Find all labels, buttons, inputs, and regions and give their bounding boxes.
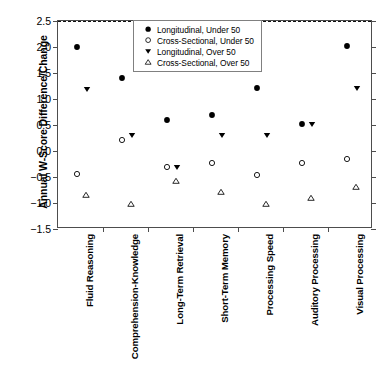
data-point-open-triangle-up: [306, 193, 315, 202]
figure-container: Annual W-Score Difference/Change 2.52.01…: [0, 0, 384, 370]
x-axis-label-comprehension-knowledge: Comprehension-Knowledge: [129, 234, 140, 359]
legend-item: Longitudinal, Under 50: [139, 24, 254, 35]
x-tick-mark: [328, 227, 329, 232]
data-point-filled-circle: [207, 110, 216, 119]
data-point-open-circle: [297, 159, 306, 168]
x-tick-mark: [238, 227, 239, 232]
y-tick-label: −1.5: [30, 223, 51, 235]
data-point-filled-triangle-down: [217, 131, 226, 140]
y-tick-mark-right: [371, 73, 376, 74]
y-tick-mark-left: [53, 203, 58, 204]
data-point-filled-circle: [117, 73, 126, 82]
y-tick-mark-left: [53, 21, 58, 22]
y-tick-label: −1.0: [30, 197, 51, 209]
data-point-filled-circle: [342, 42, 351, 51]
legend-label: Cross-Sectional, Over 50: [157, 58, 249, 68]
legend-item: Cross-Sectional, Over 50: [139, 57, 254, 68]
x-axis-label-long-term-retrieval: Long-Term Retrieval: [174, 234, 185, 325]
legend-marker-filled-circle-icon: [139, 25, 157, 33]
legend-label: Longitudinal, Over 50: [157, 47, 236, 57]
y-tick-mark-right: [371, 203, 376, 204]
y-tick-mark-right: [371, 21, 376, 22]
data-point-filled-circle: [162, 115, 171, 124]
x-tick-mark: [283, 227, 284, 232]
y-tick-mark-right: [371, 151, 376, 152]
y-tick-mark-left: [53, 99, 58, 100]
legend-marker-filled-triangle-down-icon: [139, 47, 157, 55]
legend-label: Cross-Sectional, Under 50: [157, 36, 254, 46]
y-tick-mark-left: [53, 151, 58, 152]
x-axis-label-fluid-reasoning: Fluid Reasoning: [84, 234, 95, 307]
y-tick-label: 1.5: [36, 67, 51, 79]
data-point-filled-circle: [252, 84, 261, 93]
y-tick-mark-right: [371, 177, 376, 178]
legend-marker-open-circle-icon: [139, 36, 157, 44]
y-tick-mark-left: [53, 47, 58, 48]
data-point-open-triangle-up: [171, 176, 180, 185]
x-tick-mark: [148, 227, 149, 232]
data-point-open-triangle-up: [126, 200, 135, 209]
data-point-filled-triangle-down: [262, 131, 271, 140]
x-axis-label-short-term-memory: Short-Term Memory: [219, 234, 230, 323]
data-point-filled-circle: [297, 120, 306, 129]
data-point-open-circle: [252, 170, 261, 179]
data-point-filled-triangle-down: [172, 162, 181, 171]
y-tick-label: 1.0: [36, 93, 51, 105]
y-tick-label: 2.0: [36, 41, 51, 53]
x-axis-label-auditory-processing: Auditory Processing: [309, 234, 320, 326]
legend-item: Longitudinal, Over 50: [139, 46, 254, 57]
data-point-open-circle: [162, 162, 171, 171]
data-point-open-circle: [72, 169, 81, 178]
x-axis-label-visual-processing: Visual Processing: [354, 234, 365, 315]
legend-item: Cross-Sectional, Under 50: [139, 35, 254, 46]
y-tick-mark-left: [53, 125, 58, 126]
legend-label: Longitudinal, Under 50: [157, 25, 240, 35]
data-point-filled-triangle-down: [352, 84, 361, 93]
y-tick-label: 2.5: [36, 15, 51, 27]
chart-legend: Longitudinal, Under 50Cross-Sectional, U…: [133, 20, 262, 72]
y-tick-label: −0.5: [30, 171, 51, 183]
data-point-open-triangle-up: [216, 188, 225, 197]
data-point-open-circle: [342, 154, 351, 163]
y-tick-mark-right: [371, 47, 376, 48]
y-tick-mark-left: [53, 177, 58, 178]
data-point-filled-triangle-down: [307, 120, 316, 129]
data-point-open-circle: [207, 158, 216, 167]
y-tick-label: 0.0: [36, 145, 51, 157]
data-point-filled-circle: [72, 43, 81, 52]
data-point-filled-triangle-down: [127, 131, 136, 140]
x-tick-mark: [193, 227, 194, 232]
data-point-open-triangle-up: [261, 200, 270, 209]
y-tick-mark-right: [371, 125, 376, 126]
y-tick-label: 0.5: [36, 119, 51, 131]
data-point-open-triangle-up: [81, 190, 90, 199]
legend-marker-open-triangle-up-icon: [139, 58, 157, 66]
x-axis-label-processing-speed: Processing Speed: [264, 234, 275, 316]
y-tick-mark-right: [371, 229, 376, 230]
data-point-open-circle: [117, 136, 126, 145]
x-tick-mark: [103, 227, 104, 232]
data-point-filled-triangle-down: [82, 84, 91, 93]
y-tick-mark-left: [53, 229, 58, 230]
y-tick-mark-left: [53, 73, 58, 74]
y-tick-mark-right: [371, 99, 376, 100]
data-point-open-triangle-up: [351, 183, 360, 192]
